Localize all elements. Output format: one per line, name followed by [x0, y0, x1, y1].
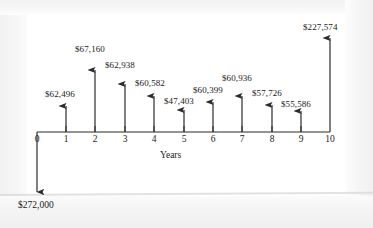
- value-label-year-1: $62,496: [45, 89, 75, 99]
- tick-label-1: 1: [58, 134, 74, 144]
- tick-label-10: 10: [322, 134, 338, 144]
- tick-label-5: 5: [176, 134, 192, 144]
- value-label-year-6: $60,399: [193, 85, 223, 95]
- value-label-year-7: $60,936: [222, 73, 252, 83]
- tick-label-3: 3: [117, 134, 133, 144]
- value-label-year-10: $227,574: [303, 22, 338, 32]
- value-label-year-0-outflow: $272,000: [18, 200, 54, 211]
- axis-title-years: Years: [160, 150, 181, 161]
- value-label-year-5: $47,403: [164, 96, 194, 106]
- value-label-year-9: $55,586: [281, 99, 311, 109]
- value-label-year-2: $67,160: [75, 44, 105, 54]
- tick-label-2: 2: [87, 134, 103, 144]
- cash-flow-diagram-figure: 0 1 2 3 4 5 6 7 8 9 10 Years $62,496 $67…: [0, 0, 373, 228]
- value-label-year-3: $62,938: [105, 60, 135, 70]
- tick-label-7: 7: [234, 134, 250, 144]
- tick-label-8: 8: [264, 134, 280, 144]
- tick-label-9: 9: [293, 134, 309, 144]
- tick-label-6: 6: [205, 134, 221, 144]
- value-label-year-8: $57,726: [252, 88, 282, 98]
- value-label-year-4: $60,582: [135, 78, 165, 88]
- cash-flow-vector-layer: [0, 0, 373, 228]
- tick-label-4: 4: [146, 134, 162, 144]
- tick-label-0: 0: [29, 134, 45, 144]
